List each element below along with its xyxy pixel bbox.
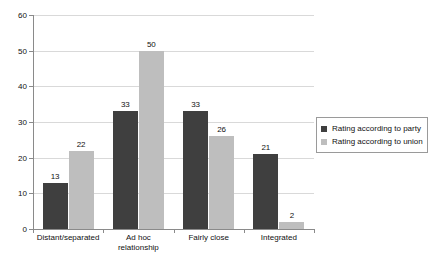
bar: 26 [209, 136, 234, 229]
bar-group: 3326 [183, 15, 234, 229]
legend-item-union: Rating according to union [321, 135, 423, 148]
y-axis-tick-label: 20 [18, 153, 27, 162]
bar-value-label: 21 [261, 143, 270, 152]
bar-value-label: 33 [191, 100, 200, 109]
y-axis-tick-label: 0 [23, 225, 27, 234]
bar-value-label: 2 [290, 211, 294, 220]
bar-value-label: 50 [147, 40, 156, 49]
x-axis-category-label: Integrated [244, 233, 314, 243]
legend-label-party: Rating according to party [332, 124, 421, 133]
bar-group: 3350 [113, 15, 164, 229]
x-axis-category-label: Ad hoc relationship [103, 233, 173, 253]
y-axis-tick-label: 10 [18, 189, 27, 198]
chart-legend: Rating according to party Rating accordi… [316, 117, 428, 153]
bar-chart: 0102030405060132233503326212 Rating acco… [0, 0, 445, 267]
bar-value-label: 26 [217, 125, 226, 134]
bar-group: 1322 [43, 15, 94, 229]
bar-value-label: 13 [51, 172, 60, 181]
bar-group: 212 [253, 15, 304, 229]
bar: 2 [279, 222, 304, 229]
bar-value-label: 33 [121, 100, 130, 109]
x-axis-category-label: Fairly close [174, 233, 244, 243]
legend-item-party: Rating according to party [321, 122, 423, 135]
y-axis-tick-label: 50 [18, 46, 27, 55]
bar: 33 [183, 111, 208, 229]
bar-value-label: 22 [77, 140, 86, 149]
bar: 21 [253, 154, 278, 229]
plot-area: 0102030405060132233503326212 [33, 15, 314, 229]
legend-swatch-party-icon [321, 126, 327, 132]
y-axis-tick-label: 30 [18, 118, 27, 127]
y-axis-tick-label: 40 [18, 82, 27, 91]
y-axis-tick-label: 60 [18, 11, 27, 20]
x-tick-mark [314, 229, 315, 233]
legend-label-union: Rating according to union [332, 137, 423, 146]
x-axis-category-label: Distant/separated [33, 233, 103, 243]
bar: 33 [113, 111, 138, 229]
bar: 50 [139, 51, 164, 229]
y-axis-line [33, 15, 34, 229]
bar: 22 [69, 151, 94, 229]
bar: 13 [43, 183, 68, 229]
legend-swatch-union-icon [321, 139, 327, 145]
x-tick-mark [33, 229, 34, 233]
